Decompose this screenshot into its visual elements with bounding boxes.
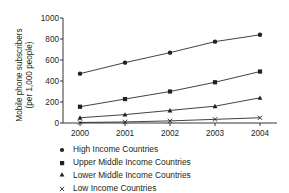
legend-item-low-income[interactable]: Low Income Countries <box>60 183 156 193</box>
legend-x-marker-icon <box>60 187 64 191</box>
legend-label-high-income: High Income Countries <box>73 144 158 154</box>
legend-circle-marker-icon <box>60 148 64 152</box>
data-point-square <box>213 80 217 84</box>
data-point-circle <box>78 71 82 75</box>
legend-item-upper-middle-income[interactable]: Upper Middle Income Countries <box>60 157 191 167</box>
x-tick-label-2002: 2002 <box>161 129 180 138</box>
data-point-square <box>168 89 172 93</box>
line-chart: Mobile phone subscribers (per 1,000 peop… <box>0 0 289 193</box>
series-line-2 <box>80 98 260 118</box>
data-point-circle <box>213 39 217 43</box>
x-tick-label-2003: 2003 <box>206 129 225 138</box>
x-tick-label-2001: 2001 <box>116 129 135 138</box>
series-triangle <box>78 95 263 119</box>
x-tick-label-2004: 2004 <box>251 129 270 138</box>
legend-label-low-income: Low Income Countries <box>73 183 156 193</box>
y-tick-label-0: 0 <box>54 119 59 128</box>
legend-item-lower-middle-income[interactable]: Lower Middle Income Countries <box>60 170 191 180</box>
chart-figure: Mobile phone subscribers (per 1,000 peop… <box>0 0 289 193</box>
y-axis-title-line2: (per 1,000 people) <box>25 41 34 108</box>
data-point-circle <box>168 50 172 54</box>
legend-label-lower-middle-income: Lower Middle Income Countries <box>73 170 191 180</box>
y-tick-label-600: 600 <box>45 56 59 65</box>
y-axis-title-line1: Mobile phone subscribers <box>15 28 24 121</box>
data-point-square <box>258 69 262 73</box>
legend-label-upper-middle-income: Upper Middle Income Countries <box>73 157 191 167</box>
data-point-circle <box>258 33 262 37</box>
y-tick-label-800: 800 <box>45 35 59 44</box>
legend: High Income Countries Upper Middle Incom… <box>60 144 191 193</box>
legend-square-marker-icon <box>60 161 64 165</box>
data-point-triangle <box>258 95 263 99</box>
y-tick-label-400: 400 <box>45 77 59 86</box>
y-tick-label-1000: 1000 <box>41 14 60 23</box>
data-point-square <box>123 97 127 101</box>
legend-item-high-income[interactable]: High Income Countries <box>60 144 158 154</box>
series-line-3 <box>80 118 260 123</box>
data-point-circle <box>123 60 127 64</box>
legend-triangle-marker-icon <box>60 172 65 176</box>
series-circle <box>78 33 262 76</box>
x-tick-label-2000: 2000 <box>71 129 90 138</box>
data-point-square <box>78 105 82 109</box>
series-layer <box>78 33 263 125</box>
y-tick-label-200: 200 <box>45 98 59 107</box>
series-line-1 <box>80 72 260 107</box>
